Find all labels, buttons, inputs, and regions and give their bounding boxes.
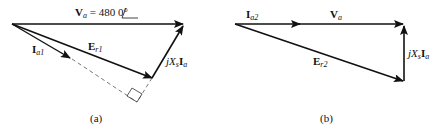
- caption-a: (a): [90, 112, 103, 125]
- caption-b: (b): [320, 112, 333, 125]
- va-label-a: Va = 480 0°: [75, 6, 128, 20]
- er2-label: Er2: [313, 55, 327, 69]
- right-angle-marker: [127, 88, 142, 96]
- jxsia-label-a: jXsIa: [164, 55, 187, 69]
- panel-a: Va = 480 0° Ia1 Er1 jXsIa (a): [12, 6, 187, 125]
- er2-phasor: [235, 24, 403, 81]
- right-angle-marker-b: [127, 94, 142, 102]
- va-label-b: Va: [330, 8, 342, 22]
- phasor-diagram-canvas: Va = 480 0° Ia1 Er1 jXsIa (a) Ia2 Va: [0, 0, 439, 135]
- ia2-label: Ia2: [246, 8, 258, 22]
- panel-b: Ia2 Va Er2 jXsIa (b): [235, 8, 429, 125]
- ia1-label: Ia1: [32, 43, 44, 57]
- jxsia-phasor-a: [152, 26, 183, 78]
- jxsia-label-b: jXsIa: [406, 47, 429, 61]
- er1-label: Er1: [88, 40, 102, 54]
